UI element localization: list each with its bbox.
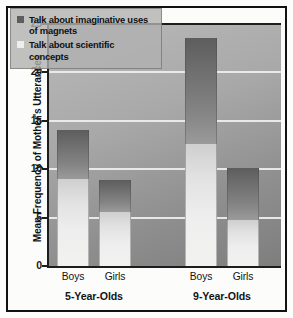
bar-girls-3 [227, 168, 259, 266]
x-axis-category-label: Girls [213, 271, 273, 282]
x-axis-group-label: 9-Year-Olds [167, 290, 277, 302]
y-axis-tick [42, 71, 48, 73]
bar-outline [57, 130, 89, 266]
legend-item-imaginative: Talk about imaginative uses of magnets [17, 14, 155, 36]
y-axis-tick [42, 120, 48, 122]
legend-label-scientific: Talk about scientific concepts [29, 39, 155, 61]
legend-swatch-icon-imaginative [17, 16, 24, 23]
bar-boys-0 [57, 130, 89, 266]
gridline [49, 71, 281, 73]
bar-outline [185, 38, 217, 266]
y-axis-tick [42, 217, 48, 219]
x-axis-line [47, 266, 281, 268]
chart-legend: Talk about imaginative uses of magnets T… [10, 8, 162, 69]
y-axis-tick [42, 168, 48, 170]
legend-label-imaginative: Talk about imaginative uses of magnets [29, 14, 155, 36]
gridline [49, 120, 281, 122]
bar-outline [99, 180, 131, 266]
bar-boys-2 [185, 38, 217, 266]
bar-outline [227, 168, 259, 266]
legend-swatch-icon-scientific [17, 41, 24, 48]
x-axis-category-label: Girls [85, 271, 145, 282]
legend-item-scientific: Talk about scientific concepts [17, 39, 155, 61]
x-axis-group-label: 5-Year-Olds [39, 290, 149, 302]
y-axis-tick [42, 265, 48, 267]
chart-figure: 0510152025 Mean Frequency of Mother's Ut… [0, 0, 293, 318]
bar-girls-1 [99, 180, 131, 266]
